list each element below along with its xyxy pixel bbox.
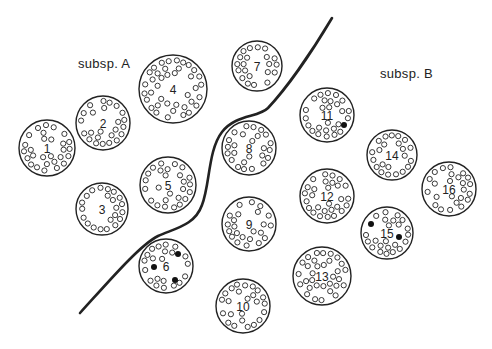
vascular-bundle-open xyxy=(328,251,333,256)
vascular-bundle-open xyxy=(344,203,349,208)
vascular-bundle-open xyxy=(324,128,329,133)
vascular-bundle-open xyxy=(274,62,279,67)
vascular-bundle-open xyxy=(386,172,391,177)
section-number: 13 xyxy=(315,270,329,284)
vascular-bundle-open xyxy=(223,291,228,296)
vascular-bundle-open xyxy=(263,132,268,137)
cross-section-1: 1 xyxy=(19,120,75,176)
vascular-bundle-open xyxy=(380,162,385,167)
vascular-bundle-open xyxy=(268,141,273,146)
vascular-bundle-open xyxy=(181,60,186,65)
vascular-bundle-open xyxy=(236,289,241,294)
vascular-bundle-open xyxy=(80,200,85,205)
vascular-bundle-open xyxy=(44,162,49,167)
vascular-bundle-open xyxy=(448,165,453,170)
vascular-bundle-open xyxy=(147,70,152,75)
vascular-bundle-open xyxy=(173,244,178,249)
vascular-bundle-open xyxy=(79,118,84,123)
vascular-bundle-open xyxy=(312,96,317,101)
vascular-bundle-open xyxy=(245,324,250,329)
vascular-bundle-open xyxy=(408,145,413,150)
vascular-bundle-open xyxy=(340,98,345,103)
vascular-bundle-open xyxy=(255,209,260,214)
vascular-bundle-open xyxy=(403,239,408,244)
vascular-bundle-open xyxy=(327,258,332,263)
vascular-bundle-open xyxy=(186,62,191,67)
cross-section-4: 4 xyxy=(139,55,207,123)
vascular-bundle-open xyxy=(235,240,240,245)
section-number: 15 xyxy=(380,227,394,241)
vascular-bundle-open xyxy=(231,218,236,223)
vascular-bundle-open xyxy=(165,101,170,106)
vascular-bundle-open xyxy=(143,82,148,87)
vascular-bundle-open xyxy=(155,203,160,208)
vascular-bundle-open xyxy=(104,227,109,232)
vascular-bundle-open xyxy=(100,141,105,146)
vascular-bundle-open xyxy=(107,140,112,145)
vascular-bundle-open xyxy=(29,162,34,167)
vascular-bundle-open xyxy=(114,103,119,108)
vascular-bundle-open xyxy=(119,132,124,137)
vascular-bundle-open xyxy=(85,221,90,226)
vascular-bundle-open xyxy=(256,241,261,246)
vascular-bundle-open xyxy=(251,82,256,87)
vascular-bundle-open xyxy=(396,141,401,146)
vascular-bundle-open xyxy=(150,77,155,82)
vascular-bundle-open xyxy=(298,282,303,287)
vascular-bundle-open xyxy=(67,146,72,151)
vascular-bundle-open xyxy=(171,283,176,288)
vascular-bundle-open xyxy=(156,244,161,249)
cross-section-12: 12 xyxy=(300,169,354,223)
stem-section-diagram: 12345678910111213141516 xyxy=(0,0,492,349)
vascular-bundle-open xyxy=(154,110,159,115)
vascular-bundle-open xyxy=(172,71,177,76)
vascular-bundle-open xyxy=(257,317,262,322)
vascular-bundle-open xyxy=(114,138,119,143)
vascular-bundle-open xyxy=(155,103,160,108)
vascular-bundle-open xyxy=(199,82,204,87)
vascular-bundle-open xyxy=(265,70,270,75)
vascular-bundle-open xyxy=(21,149,26,154)
vascular-bundle-open xyxy=(370,150,375,155)
vascular-bundle-open xyxy=(374,164,379,169)
vascular-bundle-open xyxy=(468,182,473,187)
vascular-bundle-open xyxy=(183,274,188,279)
vascular-bundle-open xyxy=(247,237,252,242)
vascular-bundle-open xyxy=(234,231,239,236)
vascular-bundle-open xyxy=(261,161,266,166)
section-number: 12 xyxy=(320,190,334,204)
cross-section-6: 6 xyxy=(139,239,193,293)
vascular-bundle-open xyxy=(306,123,311,128)
vascular-bundle-open xyxy=(459,204,464,209)
vascular-bundle-open xyxy=(113,213,118,218)
vascular-bundle-open xyxy=(312,258,317,263)
vascular-bundle-open xyxy=(373,238,378,243)
cross-section-7: 7 xyxy=(232,41,282,91)
vascular-bundle-open xyxy=(272,56,277,61)
vascular-bundle-open xyxy=(303,116,308,121)
vascular-bundle-open xyxy=(66,154,71,159)
vascular-bundle-open xyxy=(244,243,249,248)
vascular-bundle-open xyxy=(242,160,247,165)
vascular-bundle-open xyxy=(338,129,343,134)
vascular-bundle-open xyxy=(187,190,192,195)
vascular-bundle-open xyxy=(228,312,233,317)
vascular-bundle-open xyxy=(229,234,234,239)
vascular-bundle-open xyxy=(111,189,116,194)
vascular-bundle-open xyxy=(335,102,340,107)
vascular-bundle-open xyxy=(156,185,161,190)
vascular-bundle-open xyxy=(331,213,336,218)
vascular-bundle-open xyxy=(331,274,336,279)
vascular-bundle-open xyxy=(333,92,338,97)
vascular-bundle-open xyxy=(229,157,234,162)
vascular-bundle-open xyxy=(42,168,47,173)
vascular-bundle-open xyxy=(90,188,95,193)
vascular-bundle-open xyxy=(142,91,147,96)
vascular-bundle-open xyxy=(241,62,246,67)
vascular-bundle-open xyxy=(89,130,94,135)
vascular-bundle-open xyxy=(80,206,85,211)
vascular-bundle-open xyxy=(306,255,311,260)
vascular-bundle-open xyxy=(307,285,312,290)
vascular-bundle-open xyxy=(185,261,190,266)
vascular-bundle-open xyxy=(339,197,344,202)
